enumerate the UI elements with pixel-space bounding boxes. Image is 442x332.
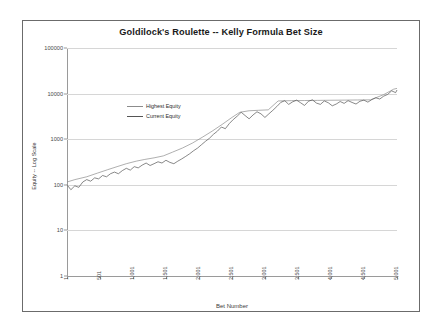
y-tick-label-1000: 1000 [51, 136, 67, 142]
plot-area: 110100100010000100000 15011,0011,5012,00… [67, 48, 397, 276]
y-tick-label-100: 100 [54, 182, 67, 188]
legend-swatch-current-equity [127, 116, 143, 117]
legend-item-current-equity: Current Equity [127, 111, 181, 121]
x-axis-title: Bet Number [67, 303, 397, 309]
series-line-highest-equity [67, 88, 397, 182]
legend-item-highest-equity: Highest Equity [127, 101, 181, 111]
chart-title: Goldilock's Roulette -- Kelly Formula Be… [23, 27, 419, 37]
legend-label-current-equity: Current Equity [146, 113, 180, 119]
y-tick-label-10: 10 [57, 227, 67, 233]
chart-legend: Highest Equity Current Equity [127, 101, 181, 121]
chart-frame: Goldilock's Roulette -- Kelly Formula Be… [22, 20, 420, 312]
y-axis-title: Equity -- Log Scale [31, 142, 37, 189]
x-tick-label-1: 1 [63, 277, 69, 280]
data-series-svg [67, 48, 397, 276]
legend-swatch-highest-equity [127, 106, 143, 107]
series-line-current-equity [67, 90, 397, 190]
legend-label-highest-equity: Highest Equity [146, 103, 181, 109]
y-tick-label-10000: 10000 [47, 91, 67, 97]
y-tick-label-100000: 100000 [44, 45, 67, 51]
